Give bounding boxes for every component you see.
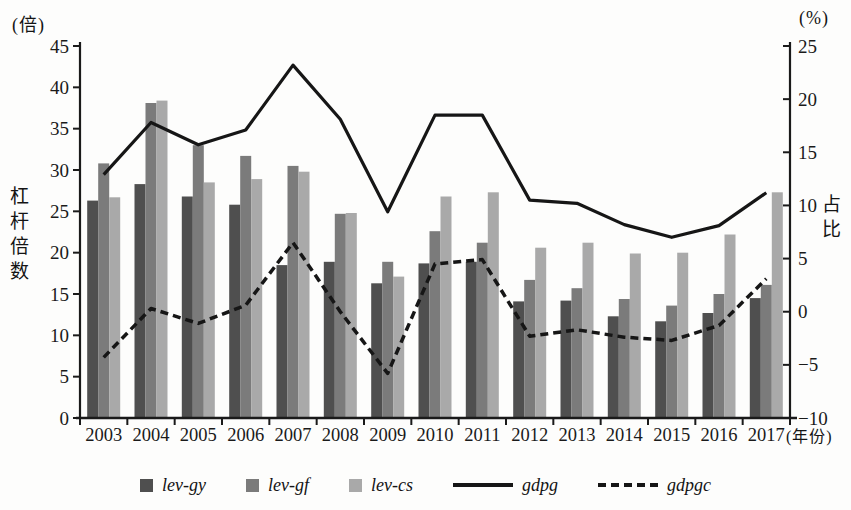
x-axis-year-label: 2016 — [701, 425, 738, 445]
bar-lev-gy-2008 — [324, 262, 335, 418]
right-axis-tick-label: 15 — [798, 142, 817, 163]
legend-label-lev-cs: lev-cs — [371, 475, 413, 496]
bar-lev-cs-2003 — [109, 197, 120, 418]
right-axis-tick-label: 0 — [798, 301, 808, 322]
bar-lev-gf-2014 — [619, 299, 630, 418]
chart-legend: lev-gy lev-gf lev-cs gdpg gdpgc — [0, 468, 851, 502]
legend-item-gdpg: gdpg — [453, 475, 558, 496]
bar-lev-gy-2010 — [419, 263, 430, 418]
bar-lev-gf-2007 — [288, 166, 299, 418]
legend-label-lev-gf: lev-gf — [268, 475, 309, 496]
x-axis-year-label: 2005 — [180, 425, 217, 445]
legend-label-lev-gy: lev-gy — [162, 475, 206, 496]
bar-lev-gf-2015 — [666, 306, 677, 418]
left-axis-tick-label: 40 — [50, 77, 69, 98]
bar-lev-gf-2012 — [524, 280, 535, 418]
legend-label-gdpgc: gdpgc — [667, 475, 711, 496]
bar-lev-cs-2008 — [346, 213, 357, 418]
x-axis-year-label: 2003 — [85, 425, 122, 445]
bar-lev-gy-2003 — [87, 201, 98, 418]
bar-lev-gy-2007 — [277, 265, 288, 418]
legend-item-lev-gf: lev-gf — [246, 475, 309, 496]
bar-lev-cs-2005 — [204, 182, 215, 418]
right-axis-tick-label: 20 — [798, 89, 817, 110]
bar-lev-gy-2013 — [561, 301, 572, 418]
x-axis-year-label: 2015 — [653, 425, 690, 445]
bar-lev-gf-2010 — [430, 231, 441, 418]
left-axis-tick-label: 30 — [50, 160, 69, 181]
bar-lev-gy-2015 — [655, 321, 666, 418]
bar-lev-cs-2010 — [441, 197, 452, 419]
bar-lev-gf-2005 — [193, 145, 204, 418]
bar-lev-cs-2017 — [772, 192, 783, 418]
legend-solid-line-sample — [453, 483, 513, 487]
legend-item-lev-cs: lev-cs — [349, 475, 413, 496]
legend-swatch-lev-gy — [140, 479, 153, 492]
left-axis-tick-label: 10 — [50, 325, 69, 346]
bar-lev-cs-2014 — [630, 254, 641, 419]
legend-swatch-lev-gf — [246, 479, 259, 492]
bar-lev-gy-2014 — [608, 316, 619, 418]
right-axis-tick-label: 5 — [798, 248, 808, 269]
bar-lev-gy-2017 — [750, 298, 761, 418]
x-axis-year-label: 2013 — [559, 425, 596, 445]
x-axis-year-label: 2007 — [275, 425, 312, 445]
bar-lev-gf-2017 — [761, 285, 772, 418]
legend-swatch-lev-cs — [349, 479, 362, 492]
left-axis-tick-label: 25 — [50, 201, 69, 222]
legend-item-gdpgc: gdpgc — [598, 475, 711, 496]
bar-lev-gf-2004 — [146, 103, 157, 418]
bar-lev-cs-2007 — [299, 172, 310, 418]
x-axis-year-label: 2012 — [511, 425, 548, 445]
left-axis-tick-label: 15 — [50, 284, 69, 305]
bar-lev-gf-2003 — [98, 163, 109, 418]
x-axis-year-label: 2010 — [417, 425, 454, 445]
bar-lev-gf-2009 — [382, 262, 393, 418]
legend-dashed-line-sample — [598, 483, 658, 487]
chart-plot-area: 051015202530354045−10−505101520252003200… — [0, 0, 851, 510]
right-axis-tick-label: −10 — [798, 408, 828, 429]
x-axis-year-label: 2009 — [369, 425, 406, 445]
bar-lev-gy-2009 — [371, 283, 382, 418]
legend-item-lev-gy: lev-gy — [140, 475, 206, 496]
left-axis-tick-label: 45 — [50, 36, 69, 57]
bar-lev-cs-2011 — [488, 192, 499, 418]
right-axis-tick-label: 25 — [798, 36, 817, 57]
bar-lev-gf-2013 — [572, 288, 583, 418]
bar-lev-gy-2006 — [229, 205, 240, 418]
bar-lev-cs-2016 — [725, 235, 736, 419]
bar-lev-gy-2004 — [135, 184, 146, 418]
x-axis-year-label: 2011 — [464, 425, 500, 445]
bar-lev-gf-2008 — [335, 214, 346, 418]
bar-lev-cs-2006 — [251, 179, 262, 418]
right-axis-tick-label: −5 — [798, 354, 818, 375]
bar-lev-gy-2005 — [182, 197, 193, 419]
left-axis-tick-label: 0 — [60, 408, 70, 429]
x-axis-year-label: 2008 — [322, 425, 359, 445]
left-axis-tick-label: 20 — [50, 242, 69, 263]
x-axis-year-label: 2014 — [606, 425, 643, 445]
legend-label-gdpg: gdpg — [522, 475, 558, 496]
bar-lev-gy-2011 — [466, 262, 477, 418]
x-axis-year-label: 2004 — [133, 425, 170, 445]
left-axis-tick-label: 5 — [60, 366, 70, 387]
x-axis-year-label: 2006 — [227, 425, 264, 445]
left-axis-tick-label: 35 — [50, 118, 69, 139]
chart-canvas: (倍) (%) (年份) 杠杆倍数 占比 051015202530354045−… — [0, 0, 851, 510]
bar-lev-gf-2006 — [240, 156, 251, 418]
right-axis-tick-label: 10 — [798, 195, 817, 216]
bar-lev-gf-2016 — [714, 294, 725, 418]
x-axis-year-label: 2017 — [748, 425, 785, 445]
bar-lev-cs-2004 — [157, 101, 168, 418]
